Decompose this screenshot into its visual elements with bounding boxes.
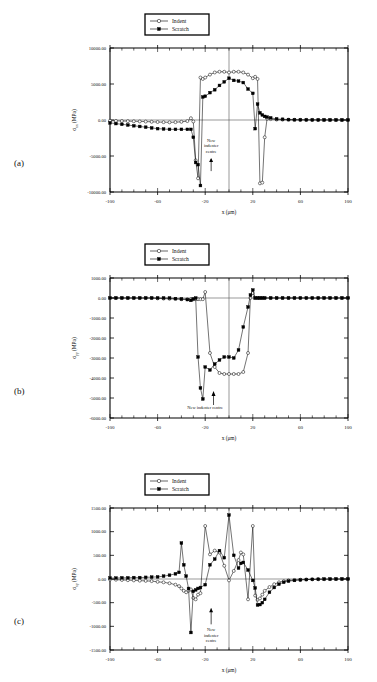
data-point-scratch: [162, 297, 165, 300]
x-tick-label: -20: [202, 657, 209, 662]
data-point-indent: [201, 298, 204, 301]
data-point-indent: [228, 71, 231, 74]
y-tick-label: -4000.00: [90, 376, 107, 381]
x-tick-label: 60: [298, 199, 304, 204]
data-point-indent: [223, 373, 226, 376]
y-tick-label: -10000.00: [87, 190, 106, 195]
data-point-scratch: [190, 128, 193, 131]
data-point-scratch: [242, 326, 245, 329]
data-point-indent: [132, 579, 135, 582]
x-axis-title: x (μm): [222, 209, 237, 216]
x-tick-label: 100: [344, 199, 352, 204]
data-point-scratch: [281, 118, 284, 121]
x-tick-label: 60: [298, 425, 304, 430]
y-tick-label: -6000.00: [90, 416, 107, 421]
data-point-scratch: [287, 580, 290, 583]
y-tick-label: 500.00: [93, 553, 106, 558]
data-point-scratch: [249, 294, 252, 297]
data-point-scratch: [144, 297, 147, 300]
data-point-scratch: [281, 297, 284, 300]
data-point-scratch: [275, 297, 278, 300]
chart-legend: IndentScratch: [145, 474, 209, 495]
data-point-indent: [208, 352, 211, 355]
annotation-line: centre: [206, 638, 217, 643]
data-point-indent: [180, 587, 183, 590]
data-point-scratch: [311, 297, 314, 300]
data-point-scratch: [254, 127, 257, 130]
y-axis-title: σyy (MPa): [71, 337, 79, 359]
data-point-scratch: [174, 572, 177, 575]
data-point-scratch: [228, 356, 231, 359]
annotation-line: New indenter centre: [187, 405, 223, 410]
data-point-scratch: [347, 297, 350, 300]
data-point-scratch: [115, 122, 118, 125]
data-point-scratch: [180, 542, 183, 545]
data-point-scratch: [156, 575, 159, 578]
data-point-scratch: [186, 298, 189, 301]
data-point-indent: [204, 524, 207, 527]
annotation-arrow-head: [209, 158, 213, 162]
data-point-indent: [138, 120, 141, 123]
data-point-scratch: [109, 297, 112, 300]
data-point-scratch: [109, 577, 112, 580]
data-point-scratch: [261, 601, 264, 604]
data-point-scratch: [247, 88, 250, 91]
x-tick-label: -20: [202, 199, 209, 204]
data-point-scratch: [180, 298, 183, 301]
data-point-scratch: [335, 578, 338, 581]
data-point-scratch: [209, 563, 212, 566]
data-point-scratch: [201, 398, 204, 401]
data-point-scratch: [256, 103, 259, 106]
data-point-scratch: [237, 80, 240, 83]
y-tick-label: 1500.00: [91, 506, 107, 511]
data-point-scratch: [247, 306, 250, 309]
legend-marker-indent: [157, 249, 160, 252]
data-point-indent: [132, 120, 135, 123]
data-point-scratch: [311, 118, 314, 121]
data-point-scratch: [341, 297, 344, 300]
data-point-indent: [232, 373, 235, 376]
chart-panel-a: -100-60-202060100x (μm)10000.005000.000.…: [0, 0, 377, 228]
data-point-scratch: [341, 578, 344, 581]
y-tick-label: 10000.00: [89, 46, 107, 51]
data-point-scratch: [335, 119, 338, 122]
data-point-scratch: [132, 297, 135, 300]
data-point-scratch: [213, 88, 216, 91]
data-point-indent: [208, 553, 211, 556]
data-point-indent: [174, 121, 177, 124]
data-point-scratch: [293, 297, 296, 300]
data-point-scratch: [218, 549, 221, 552]
data-point-scratch: [268, 591, 271, 594]
annotation-line: centre: [206, 149, 217, 154]
data-point-indent: [156, 121, 159, 124]
data-point-indent: [144, 579, 147, 582]
svg-text:σxy (MPa): σxy (MPa): [71, 568, 79, 590]
data-point-scratch: [251, 92, 254, 95]
data-point-scratch: [293, 118, 296, 121]
data-point-indent: [232, 70, 235, 73]
x-axis-title: x (μm): [222, 435, 237, 442]
legend-marker-indent: [157, 19, 160, 22]
data-point-indent: [208, 73, 211, 76]
data-point-indent: [273, 583, 276, 586]
data-point-scratch: [317, 297, 320, 300]
data-point-scratch: [199, 184, 202, 187]
data-point-indent: [168, 121, 171, 124]
chart-panel-b: -100-60-202060100x (μm)1000.000.00-1000.…: [0, 228, 377, 458]
data-point-indent: [204, 76, 207, 79]
data-point-scratch: [232, 554, 235, 557]
data-point-scratch: [251, 579, 254, 582]
data-point-scratch: [347, 578, 350, 581]
data-point-indent: [197, 177, 200, 180]
panel-label-c: (c): [14, 616, 24, 626]
data-point-scratch: [282, 581, 285, 584]
data-point-indent: [247, 598, 250, 601]
y-axis-title: σxx (MPa): [71, 109, 79, 131]
data-point-indent: [237, 373, 240, 376]
legend-label-indent: Indent: [172, 478, 187, 484]
data-point-indent: [232, 569, 235, 572]
y-tick-label: -5000.00: [90, 154, 107, 159]
data-point-indent: [150, 580, 153, 583]
data-point-scratch: [329, 578, 332, 581]
data-point-scratch: [144, 576, 147, 579]
